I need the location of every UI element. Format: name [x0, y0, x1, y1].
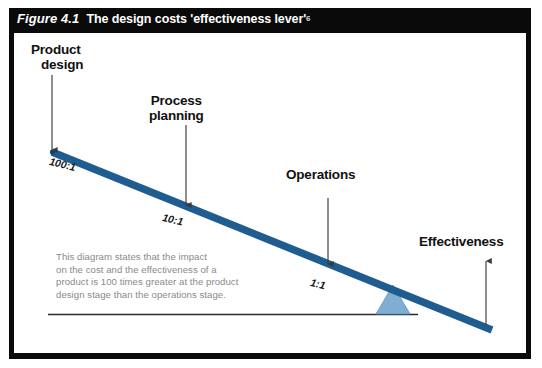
page-title: The design costs 'effectiveness lever' [86, 12, 306, 26]
callout-process-planning-line2: planning [149, 108, 204, 123]
callout-product-design-line1: Product [31, 42, 81, 57]
figure-number: Figure 4.1 [17, 11, 79, 26]
description-line-3: product is 100 times greater at the prod… [56, 276, 286, 289]
description-line-4: design stage than the operations stage. [56, 289, 286, 302]
lever-left-endpoint [50, 149, 55, 154]
figure-title-bar: Figure 4.1 The design costs 'effectivene… [9, 8, 531, 29]
callout-effectiveness: Effectiveness [419, 235, 503, 250]
callout-process-planning-line1: Process [151, 93, 202, 108]
callout-operations: Operations [286, 168, 355, 183]
description-text: This diagram states that the impact on t… [56, 251, 286, 301]
callout-process-planning: Process planning [149, 94, 204, 123]
callout-effectiveness-line1: Effectiveness [419, 234, 503, 249]
callout-operations-line1: Operations [286, 167, 355, 182]
figure-footnote-marker: 6 [306, 14, 310, 23]
diagram-graphics [14, 33, 526, 353]
diagram-canvas: Product design Process planning Operatio… [14, 33, 526, 353]
description-line-2: on the cost and the effectiveness of a [56, 264, 286, 277]
callout-product-design: Product design [31, 43, 83, 72]
figure-root: Figure 4.1 The design costs 'effectivene… [0, 0, 542, 368]
callout-product-design-line2: design [41, 58, 83, 73]
description-line-1: This diagram states that the impact [56, 251, 286, 264]
